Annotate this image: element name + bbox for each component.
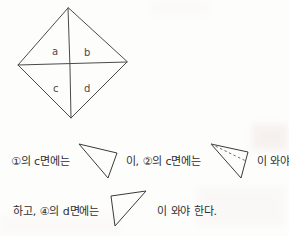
net-diagram-svg	[8, 2, 138, 122]
statement-line-1: ①의 c면에는 이, ②의 c면에는 이 와야	[11, 140, 289, 180]
net-horizontal-edge	[18, 62, 127, 65]
inline-triangle-3	[106, 188, 150, 232]
line1-segment-2: 이, ②의 c면에는	[126, 152, 201, 168]
inline-triangle-1	[77, 140, 121, 180]
line2-segment-1: 하고, ④의 d면에는	[13, 202, 99, 218]
face-label-d: d	[84, 83, 91, 94]
face-label-b: b	[84, 47, 91, 58]
scanned-page: a b c d ①의 c면에는 이, ②의 c면에는	[0, 0, 289, 236]
line1-segment-3: 이 와야	[257, 152, 289, 168]
statement-line-2: 하고, ④의 d면에는 이 와야 한다.	[13, 188, 217, 232]
face-label-c: c	[53, 83, 59, 94]
inline-triangle-2	[208, 140, 252, 180]
triangle-plain-up-right-svg	[106, 188, 150, 232]
net-vertical-edge	[68, 8, 71, 118]
face-label-a: a	[52, 46, 58, 57]
line2-segment-2: 이 와야 한다.	[157, 202, 217, 218]
statement-block: ①의 c면에는 이, ②의 c면에는 이 와야 하고, ④의 d면에는	[0, 126, 289, 236]
scan-artifact	[150, 0, 210, 16]
triangle-plain-down-right-svg	[77, 140, 121, 180]
triangle-dashed-down-right-svg	[208, 140, 252, 180]
kite-net-diagram: a b c d	[8, 2, 138, 122]
line1-segment-1: ①의 c면에는	[11, 152, 70, 168]
